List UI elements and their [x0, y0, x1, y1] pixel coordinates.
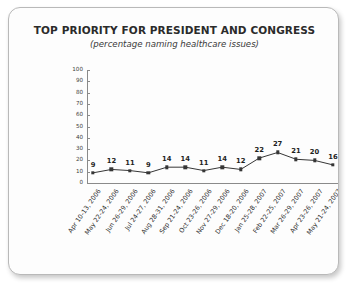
data-point-marker: [239, 168, 242, 171]
data-point-marker: [221, 165, 224, 168]
data-point-value-label: 22: [254, 147, 263, 154]
data-point-marker: [91, 171, 94, 174]
data-point-marker: [313, 159, 316, 162]
data-point-value-label: 12: [107, 159, 116, 166]
data-point-marker: [294, 158, 297, 161]
data-point-marker: [257, 156, 260, 159]
data-point-marker: [165, 165, 168, 168]
data-point-marker: [110, 168, 113, 171]
data-point-value-label: 16: [328, 154, 337, 161]
data-point-marker: [276, 151, 279, 154]
data-point-value-label: 14: [181, 156, 190, 163]
x-axis-labels: Apr 10-13, 2006May 22-24, 2006Jun 26-29,…: [65, 188, 339, 274]
data-point-value-label: 12: [236, 159, 245, 166]
data-point-marker: [184, 165, 187, 168]
data-point-marker: [331, 163, 334, 166]
data-point-marker: [202, 169, 205, 172]
plot-area: 1009080706050403020100 91211914141114122…: [65, 68, 339, 188]
data-point-marker: [128, 169, 131, 172]
data-point-value-label: 11: [199, 160, 208, 167]
data-point-value-label: 9: [91, 162, 96, 169]
data-point-value-label: 20: [310, 150, 319, 157]
data-point-value-label: 14: [217, 156, 226, 163]
data-point-value-label: 14: [162, 156, 171, 163]
data-point-value-label: 21: [291, 148, 300, 155]
chart-title: TOP PRIORITY FOR PRESIDENT AND CONGRESS: [9, 24, 339, 36]
chart-subtitle: (percentage naming healthcare issues): [9, 39, 339, 49]
data-point-value-label: 27: [273, 142, 282, 149]
data-point-value-label: 11: [125, 160, 134, 167]
data-point-value-label: 9: [146, 162, 151, 169]
chart-card: TOP PRIORITY FOR PRESIDENT AND CONGRESS …: [8, 7, 339, 275]
data-point-marker: [147, 171, 150, 174]
